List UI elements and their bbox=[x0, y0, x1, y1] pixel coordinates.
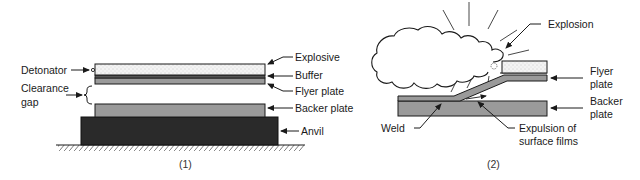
label-flyer-plate-line1: Flyer bbox=[590, 65, 613, 78]
label-clearance-gap-line1: Clearance bbox=[21, 82, 69, 95]
label-explosive: Explosive bbox=[295, 51, 340, 64]
anvil bbox=[81, 117, 278, 145]
explosive-layer bbox=[502, 61, 547, 73]
backer-plate bbox=[95, 104, 265, 117]
flyer-plate bbox=[95, 78, 265, 84]
caption-panel-1: (1) bbox=[179, 158, 192, 170]
label-backer-plate-line2: plate bbox=[590, 108, 613, 121]
clearance-gap-brace bbox=[84, 86, 92, 104]
label-weld: Weld bbox=[381, 122, 405, 135]
label-explosion: Explosion bbox=[548, 18, 594, 31]
label-flyer-plate: Flyer plate bbox=[295, 85, 344, 98]
label-backer-plate: Backer plate bbox=[295, 102, 353, 115]
backer-plate bbox=[398, 101, 547, 116]
label-backer-plate-line1: Backer bbox=[590, 95, 623, 108]
explosion-cloud bbox=[372, 27, 503, 89]
label-expulsion-line1: Expulsion of bbox=[519, 122, 576, 135]
caption-panel-2: (2) bbox=[487, 158, 500, 170]
label-buffer: Buffer bbox=[295, 69, 323, 82]
explosive-layer bbox=[95, 64, 265, 75]
label-flyer-plate-line2: plate bbox=[590, 78, 613, 91]
panel-1-setup bbox=[56, 57, 305, 151]
label-detonator: Detonator bbox=[21, 64, 67, 77]
label-expulsion-line2: surface films bbox=[519, 135, 578, 148]
ground bbox=[56, 145, 305, 151]
label-clearance-gap-line2: gap bbox=[21, 96, 39, 109]
detonator bbox=[91, 68, 94, 71]
label-anvil: Anvil bbox=[301, 125, 324, 138]
